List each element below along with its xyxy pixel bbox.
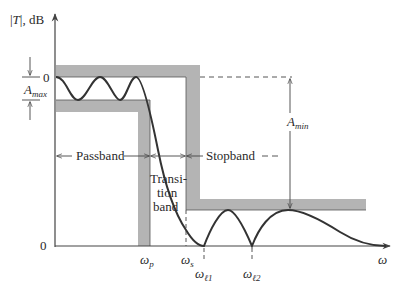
omega-l2-label: ωℓ2 [243, 266, 261, 283]
y-axis-label: |T|, dB [10, 12, 44, 27]
transition-label-3: band [153, 199, 179, 214]
transition-label-2: tion [157, 185, 178, 200]
omega-l1-label: ωℓ1 [195, 266, 212, 283]
filter-spec-diagram: Amin Amax |T|, dB 0 0 Passband Stopband … [0, 0, 399, 288]
stopband-vertical-band [186, 65, 200, 210]
omega-p-label: ωp [140, 252, 154, 269]
y-tick-zero-top: 0 [43, 70, 50, 85]
passband-upper-band [56, 65, 200, 77]
y-tick-zero-bottom: 0 [40, 238, 47, 253]
stopband-horizontal-band [186, 199, 366, 210]
stopband-label: Stopband [206, 148, 256, 163]
passband-lower-band [56, 100, 150, 246]
x-axis-label: ω [378, 252, 387, 267]
passband-label: Passband [76, 148, 125, 163]
transition-label-1: Transi- [150, 171, 187, 186]
omega-s-label: ωs [181, 252, 194, 269]
